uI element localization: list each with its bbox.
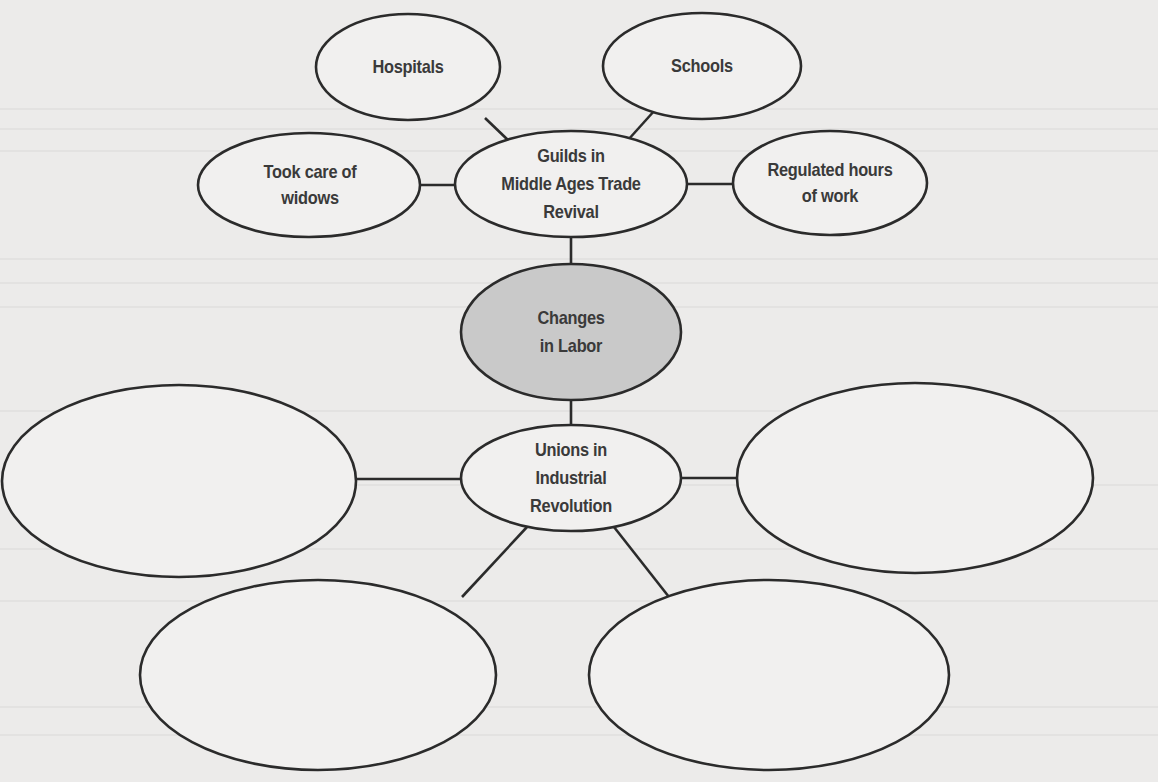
node-blank-right bbox=[737, 383, 1093, 573]
label-widows: Took care of widows bbox=[215, 133, 406, 237]
label-unions: Unions in Industrial Revolution bbox=[476, 425, 665, 531]
node-blank-left bbox=[2, 385, 356, 577]
label-guilds: Guilds in Middle Ages Trade Revival bbox=[458, 131, 683, 237]
node-blank-bottom-left bbox=[140, 580, 496, 770]
node-blank-bottom-right bbox=[589, 580, 949, 770]
label-schools: Schools bbox=[617, 13, 787, 119]
connector-unions-blankbottomleft bbox=[462, 527, 527, 597]
label-regulated-hours: Regulated hours of work bbox=[747, 131, 914, 235]
labor-web-diagram: Hospitals Schools Took care of widows Gu… bbox=[0, 0, 1158, 782]
label-hospitals: Hospitals bbox=[329, 14, 487, 120]
label-changes-in-labor: Changes in Labor bbox=[476, 264, 665, 400]
connector-unions-blankbottomright bbox=[614, 527, 669, 597]
